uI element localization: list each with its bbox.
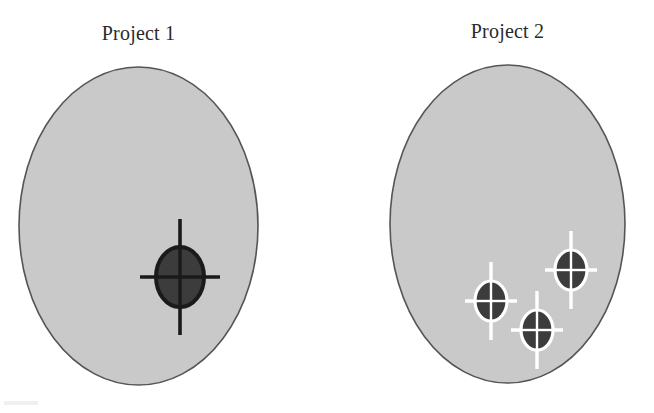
panel-group-project-1 [19,67,258,385]
panel-group-project-2 [390,65,625,383]
figure-root: Project 1 Project 2 [0,0,654,413]
target-region-project-2 [390,65,625,383]
figure-canvas [0,0,654,413]
target-region-project-1 [19,67,258,385]
scan-artifact [4,401,38,405]
